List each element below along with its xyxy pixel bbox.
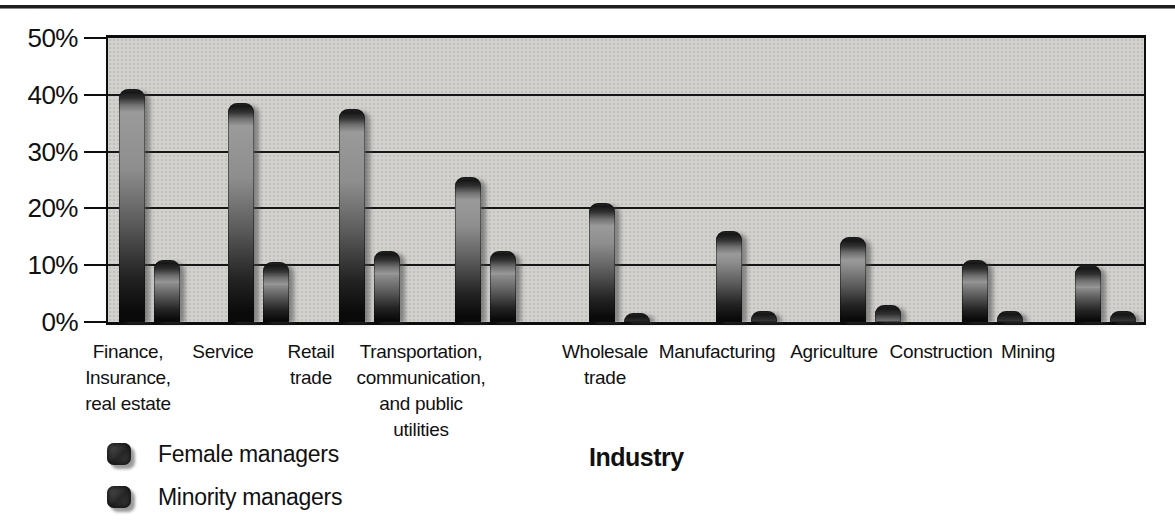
- x-axis-title: Industry: [589, 443, 684, 472]
- legend: Female managers Minority managers: [107, 441, 342, 526]
- y-tick-mark: [84, 321, 108, 323]
- y-tick-mark: [84, 151, 108, 153]
- female-managers-bar: [1075, 265, 1101, 322]
- female-managers-bar: [840, 237, 866, 322]
- minority-managers-bar: [374, 251, 400, 322]
- y-tick-label: 50%: [0, 25, 78, 51]
- x-category-label: Mining: [943, 339, 1113, 365]
- x-category-label: Transportation, communication, and publi…: [336, 339, 506, 443]
- female-managers-bar: [716, 231, 742, 322]
- scanned-chart-page: 50%40%30%20%10%0% Finance, Insurance, re…: [0, 0, 1175, 526]
- minority-managers-bar: [263, 262, 289, 322]
- legend-item-minority-managers: Minority managers: [107, 484, 342, 510]
- legend-label-female-managers: Female managers: [158, 441, 339, 467]
- y-tick-mark: [84, 264, 108, 266]
- female-managers-bar: [962, 260, 988, 322]
- minority-managers-bar: [490, 251, 516, 322]
- page-top-rule: [0, 5, 1175, 9]
- minority-managers-bar: [1110, 311, 1136, 322]
- y-tick-label: 10%: [0, 252, 78, 278]
- bar-group: [455, 177, 516, 322]
- plot-area: [106, 35, 1146, 325]
- y-tick-label: 0%: [0, 309, 78, 335]
- minority-managers-bar: [154, 260, 180, 322]
- minority-managers-bar: [624, 313, 650, 322]
- gridline: [108, 94, 1144, 96]
- legend-item-female-managers: Female managers: [107, 441, 342, 467]
- minority-managers-bar: [875, 305, 901, 322]
- y-tick-label: 30%: [0, 139, 78, 165]
- minority-managers-bar: [997, 311, 1023, 322]
- bar-group: [119, 89, 180, 322]
- bar-group: [339, 109, 400, 322]
- bar-group: [1075, 265, 1136, 322]
- minority-managers-bar: [751, 311, 777, 322]
- female-managers-bar: [339, 109, 365, 322]
- female-managers-bar: [119, 89, 145, 322]
- y-tick-label: 20%: [0, 195, 78, 221]
- female-managers-bar: [455, 177, 481, 322]
- bar-group: [962, 260, 1023, 322]
- bar-group: [589, 203, 650, 322]
- bar-group: [228, 103, 289, 322]
- female-managers-marker-icon: [107, 443, 131, 465]
- bar-group: [716, 231, 777, 322]
- bar-group: [840, 237, 901, 322]
- female-managers-bar: [589, 203, 615, 322]
- female-managers-bar: [228, 103, 254, 322]
- y-tick-mark: [84, 207, 108, 209]
- minority-managers-marker-icon: [107, 486, 131, 508]
- y-tick-mark: [84, 37, 108, 39]
- legend-label-minority-managers: Minority managers: [158, 484, 342, 510]
- y-tick-mark: [84, 94, 108, 96]
- y-tick-label: 40%: [0, 82, 78, 108]
